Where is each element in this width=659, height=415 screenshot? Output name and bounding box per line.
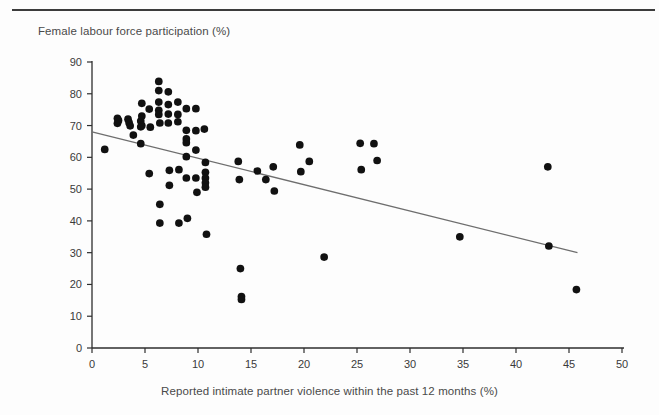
data-point [156, 119, 164, 127]
data-point [192, 127, 200, 135]
data-point [182, 139, 190, 147]
data-point [296, 141, 304, 149]
data-point [126, 122, 134, 130]
data-point [193, 188, 201, 196]
data-point [545, 242, 553, 250]
data-point [202, 183, 210, 191]
data-point [192, 146, 200, 154]
data-point [297, 168, 305, 176]
data-point [234, 158, 242, 166]
x-axis-tick-label: 50 [616, 358, 628, 370]
data-point [101, 146, 109, 154]
data-point [145, 105, 153, 113]
x-axis-tick-label: 0 [89, 358, 95, 370]
data-point [320, 253, 328, 261]
data-point [155, 78, 163, 86]
data-point [137, 123, 145, 131]
x-axis-title: Reported intimate partner violence withi… [0, 385, 659, 397]
data-point [192, 174, 200, 182]
y-axis-tick-label: 70 [70, 120, 82, 132]
data-point [156, 219, 164, 227]
data-point [164, 88, 172, 96]
data-point [237, 265, 245, 273]
data-point [201, 125, 209, 133]
data-point [164, 119, 172, 127]
y-axis-tick-label: 10 [70, 310, 82, 322]
data-point [269, 163, 277, 171]
data-point [235, 176, 243, 184]
x-axis-tick-label: 15 [245, 358, 257, 370]
data-point [166, 181, 174, 189]
y-axis-tick-label: 80 [70, 88, 82, 100]
chart-page: Female labour force participation (%) 01… [0, 0, 659, 415]
data-point [262, 176, 270, 184]
data-point [174, 111, 182, 119]
data-point [155, 111, 163, 119]
data-point [145, 170, 153, 178]
data-point [544, 163, 552, 171]
data-point [182, 153, 190, 161]
data-point [137, 140, 145, 148]
data-point [203, 230, 211, 238]
y-axis-tick-label: 20 [70, 278, 82, 290]
data-point [182, 126, 190, 134]
data-point [174, 98, 182, 106]
x-axis-tick-label: 25 [351, 358, 363, 370]
y-axis-tick-label: 30 [70, 247, 82, 259]
x-axis-tick-label: 45 [563, 358, 575, 370]
x-axis-tick-label: 20 [298, 358, 310, 370]
data-point [156, 201, 164, 209]
data-point [175, 219, 183, 227]
data-point [238, 296, 246, 304]
y-axis-tick-label: 0 [76, 342, 82, 354]
data-point [146, 123, 154, 131]
data-point [164, 110, 172, 118]
data-point [254, 167, 262, 175]
y-axis-tick-label: 50 [70, 183, 82, 195]
data-point [573, 286, 581, 294]
data-point [138, 112, 146, 120]
y-axis-tick-label: 60 [70, 151, 82, 163]
data-point [370, 140, 378, 148]
trendline [92, 132, 577, 253]
data-point [373, 157, 381, 165]
data-point [164, 101, 172, 109]
data-point [202, 159, 210, 167]
x-axis-tick-label: 10 [192, 358, 204, 370]
data-point [357, 166, 365, 174]
data-point [305, 158, 313, 166]
data-point [182, 105, 190, 113]
scatter-plot: 010203040506070809005101520253035404550 [0, 0, 659, 415]
data-point [182, 174, 190, 182]
x-axis-tick-label: 35 [457, 358, 469, 370]
data-point [155, 98, 163, 106]
data-point [155, 87, 163, 95]
x-axis-tick-label: 40 [510, 358, 522, 370]
data-point [192, 105, 200, 113]
y-axis-tick-label: 90 [70, 56, 82, 68]
data-point [356, 139, 364, 147]
data-point [184, 214, 192, 222]
x-axis-tick-label: 5 [142, 358, 148, 370]
data-point [138, 99, 146, 107]
data-point [129, 131, 137, 139]
data-point [166, 167, 174, 175]
data-point [115, 117, 123, 125]
x-axis-tick-label: 30 [404, 358, 416, 370]
data-point [270, 187, 278, 195]
data-point [456, 233, 464, 241]
y-axis-tick-label: 40 [70, 215, 82, 227]
data-point [174, 118, 182, 126]
data-point [175, 166, 183, 174]
